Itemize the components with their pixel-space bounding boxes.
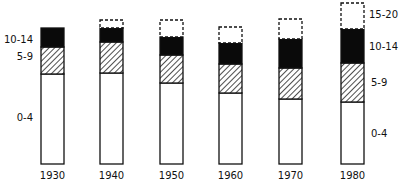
stacked-bar-chart: 193019401950196019701980 10-14 5-9 0-4 1…: [0, 0, 410, 187]
segment-5-9: [219, 64, 242, 93]
x-tick-label: 1940: [99, 170, 124, 181]
segment-0-4: [100, 73, 123, 164]
segment-5-9: [279, 68, 302, 99]
segment-10-14: [219, 43, 242, 64]
x-tick-label: 1970: [278, 170, 303, 181]
bar-1960: 1960: [218, 27, 243, 181]
segment-10-14: [279, 39, 302, 68]
right-label-0-4: 0-4: [371, 128, 387, 139]
x-tick-label: 1980: [340, 170, 365, 181]
segment-5-9: [41, 47, 64, 74]
right-label-15-20: 15-20: [369, 9, 398, 20]
x-tick-label: 1950: [159, 170, 184, 181]
segment-15-20: [341, 3, 364, 29]
segment-15-20: [279, 19, 302, 39]
segment-10-14: [41, 28, 64, 47]
segment-5-9: [100, 42, 123, 73]
segment-0-4: [219, 93, 242, 164]
bar-1950: 1950: [159, 20, 184, 181]
left-label-10-14: 10-14: [4, 34, 33, 45]
segment-10-14: [341, 29, 364, 63]
right-label-10-14: 10-14: [369, 41, 398, 52]
segment-15-20: [219, 27, 242, 43]
left-label-0-4: 0-4: [17, 112, 33, 123]
segment-10-14: [100, 28, 123, 42]
right-label-5-9: 5-9: [371, 77, 387, 88]
segment-0-4: [160, 83, 183, 164]
x-tick-label: 1930: [40, 170, 65, 181]
segment-15-20: [100, 20, 123, 28]
bar-1970: 1970: [278, 19, 303, 181]
segment-15-20: [160, 20, 183, 37]
segment-5-9: [341, 63, 364, 102]
bar-1980: 1980: [340, 3, 365, 181]
left-label-5-9: 5-9: [17, 51, 33, 62]
bar-1940: 1940: [99, 20, 124, 181]
bars-group: 193019401950196019701980: [40, 3, 365, 181]
segment-0-4: [341, 102, 364, 164]
x-tick-label: 1960: [218, 170, 243, 181]
segment-0-4: [279, 99, 302, 164]
segment-0-4: [41, 74, 64, 164]
segment-10-14: [160, 37, 183, 55]
segment-5-9: [160, 55, 183, 83]
bar-1930: 1930: [40, 28, 65, 181]
